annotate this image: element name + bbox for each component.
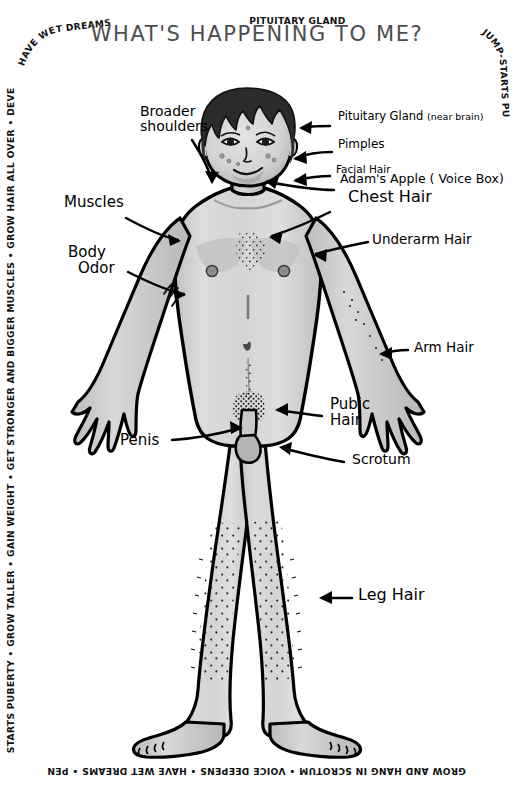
arrowhead-chest-hair — [269, 231, 283, 244]
label-broader-shoulders-line1: Broader — [140, 103, 195, 119]
label-pituitary-gland: Pituitary Gland (near brain) — [338, 110, 483, 122]
arrowhead-body-odor — [173, 288, 186, 300]
poster-canvas: PITUITARY GLAND HAVE WET DREAMS JUMP-STA… — [0, 0, 514, 807]
arrow-scrotum — [282, 448, 344, 462]
label-muscles: Muscles — [64, 194, 124, 210]
label-arm-hair: Arm Hair — [414, 340, 474, 355]
label-pubic-hair: Pubic Hair — [330, 396, 400, 428]
label-scrotum: Scrotum — [352, 452, 411, 467]
label-pimples: Pimples — [338, 138, 385, 151]
label-pubic-hair-line2: Hair — [330, 411, 361, 429]
arrowhead-underarm-hair — [313, 249, 327, 262]
label-underarm-hair: Underarm Hair — [372, 232, 472, 247]
label-adams-apple: Adam's Apple ( Voice Box) — [340, 172, 504, 186]
arrow-penis — [172, 428, 240, 440]
label-leg-hair: Leg Hair — [358, 586, 425, 603]
label-body-odor-line2: Odor — [78, 260, 115, 276]
arrowhead-pituitary — [299, 121, 312, 134]
arrowhead-adams-apple — [265, 177, 279, 189]
arrowhead-pubic-hair — [275, 403, 288, 416]
label-chest-hair: Chest Hair — [348, 188, 432, 205]
label-broader-shoulders-line2: shoulders — [140, 118, 208, 134]
label-broader-shoulders: Broader shoulders — [140, 104, 236, 134]
arrowhead-muscles — [168, 234, 181, 246]
label-body-odor: Body Odor — [68, 244, 142, 276]
arrowhead-penis — [230, 421, 243, 434]
arrowhead-broader-shoulders — [205, 171, 219, 184]
label-pituitary-gland-note: (near brain) — [427, 111, 483, 122]
arrowhead-arm-hair — [379, 347, 392, 360]
arrowhead-leg-hair — [319, 591, 332, 604]
label-pituitary-gland-main: Pituitary Gland — [338, 109, 423, 123]
label-penis: Penis — [120, 432, 159, 448]
